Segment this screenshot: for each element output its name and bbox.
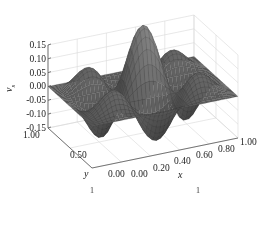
x-tick-label: 0.80 (218, 145, 235, 155)
y-tick-label: 0.00 (108, 170, 125, 180)
y-tick-label: 0.50 (70, 151, 87, 161)
caption-fragment: 1 (90, 186, 94, 195)
x-tick-label: 1.00 (240, 138, 257, 148)
z-tick-label: -0.10 (14, 110, 46, 120)
z-tick-label: 0.05 (14, 69, 46, 79)
x-axis-label: x (178, 170, 182, 180)
x-tick-label: 0.20 (153, 164, 170, 174)
z-tick-label: 0.10 (14, 55, 46, 65)
y-axis-label: y (84, 169, 88, 179)
z-tick-label: 0.15 (14, 41, 46, 51)
z-axis-label: vs (4, 85, 17, 92)
x-tick-label: 0.00 (131, 170, 148, 180)
z-tick-label: 0.00 (14, 82, 46, 92)
z-tick-label: -0.05 (14, 96, 46, 106)
x-tick-label: 0.60 (196, 151, 213, 161)
y-tick-label: 1.00 (23, 131, 40, 141)
caption-fragment: 1 (196, 186, 200, 195)
x-tick-label: 0.40 (174, 157, 191, 167)
